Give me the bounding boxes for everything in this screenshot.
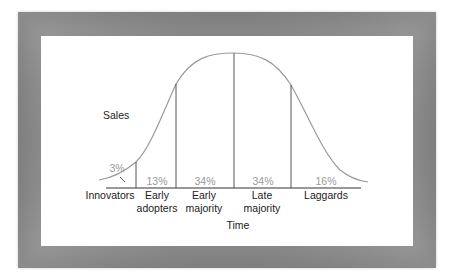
- label-late-majority-1: Late: [252, 189, 273, 201]
- pct-innovators: 3%: [109, 162, 124, 174]
- x-axis-label: Time: [227, 219, 250, 231]
- label-innovators: Innovators: [85, 189, 134, 201]
- pct-laggards: 16%: [315, 175, 336, 187]
- label-laggards: Laggards: [304, 189, 348, 201]
- label-early-majority-1: Early: [192, 189, 217, 201]
- label-late-majority-2: majority: [244, 202, 282, 214]
- label-early-adopters-2: adopters: [137, 202, 178, 214]
- pct-early-majority: 34%: [194, 175, 215, 187]
- sales-curve: [99, 53, 368, 182]
- pct-late-majority: 34%: [252, 175, 273, 187]
- pct-early-adopters: 13%: [146, 175, 167, 187]
- label-early-adopters-1: Early: [145, 189, 170, 201]
- y-axis-label: Sales: [103, 109, 129, 121]
- label-early-majority-2: majority: [186, 202, 224, 214]
- innovators-pointer: [120, 177, 125, 182]
- bell-curve-chart: Sales 3% 13% 34% 34% 16% Innovators Earl…: [0, 0, 455, 276]
